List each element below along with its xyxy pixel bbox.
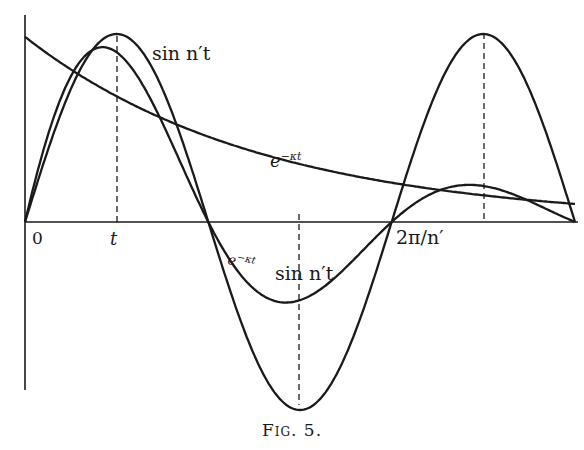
tick-period: 2π/n′ — [396, 226, 444, 248]
tick-origin: 0 — [32, 228, 43, 248]
figure-caption: Fig. 5. — [0, 420, 584, 440]
label-exp: e−κt — [270, 150, 302, 171]
exp-curve — [25, 37, 575, 204]
label-damped-sin: sin n′t — [275, 262, 333, 284]
tick-t: t — [110, 228, 117, 249]
figure-canvas — [0, 0, 584, 450]
label-sin: sin n′t — [152, 42, 210, 64]
